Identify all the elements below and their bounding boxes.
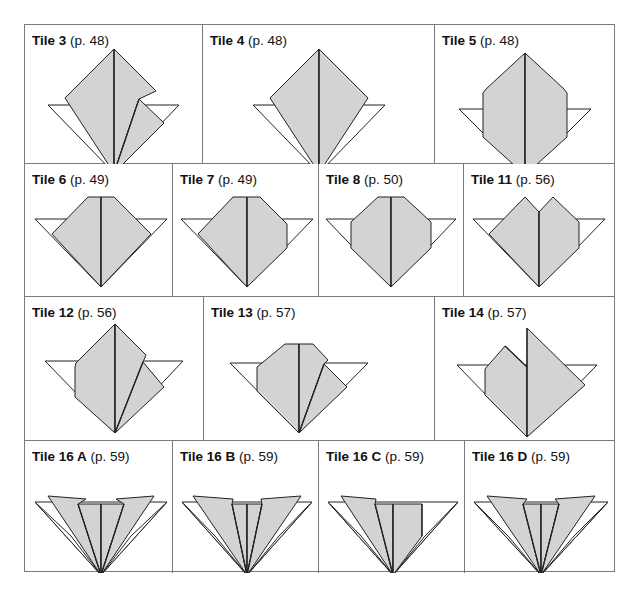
- folded-flap: [257, 344, 299, 433]
- folded-flap: [198, 197, 247, 287]
- tile-row: Tile 12 (p. 56)Tile 13 (p. 57)Tile 14 (p…: [25, 297, 614, 441]
- tile-cell-tile-4: Tile 4 (p. 48): [203, 25, 435, 163]
- tile-cell-tile-3: Tile 3 (p. 48): [25, 25, 203, 163]
- tile-label: Tile 7 (p. 49): [180, 172, 257, 187]
- tile-label: Tile 12 (p. 56): [32, 305, 117, 320]
- tile-label: Tile 16 C (p. 59): [326, 449, 424, 464]
- tile-label: Tile 14 (p. 57): [442, 305, 527, 320]
- tile-name: Tile 13: [211, 305, 253, 320]
- tile-name: Tile 16 D: [472, 449, 527, 464]
- tile-cell-tile-13: Tile 13 (p. 57): [204, 297, 435, 440]
- tile-row: Tile 16 A (p. 59)Tile 16 B (p. 59)Tile 1…: [25, 441, 614, 573]
- folded-flap: [52, 197, 101, 287]
- tile-page-ref: (p. 49): [218, 172, 257, 187]
- tile-cell-tile-7: Tile 7 (p. 49): [173, 164, 319, 296]
- tile-name: Tile 16 B: [180, 449, 235, 464]
- tile-name: Tile 16 A: [32, 449, 87, 464]
- tile-cell-tile-11: Tile 11 (p. 56): [464, 164, 616, 296]
- folded-flap: [351, 197, 391, 287]
- tile-name: Tile 16 C: [326, 449, 381, 464]
- tile-name: Tile 4: [210, 33, 244, 48]
- folded-flap: [527, 328, 585, 437]
- tile-name: Tile 7: [180, 172, 214, 187]
- tile-cell-tile-5: Tile 5 (p. 48): [435, 25, 616, 163]
- folded-flap: [393, 504, 422, 573]
- folded-flap: [247, 197, 287, 287]
- folded-flap: [101, 197, 151, 287]
- tile-label: Tile 16 B (p. 59): [180, 449, 278, 464]
- tile-row: Tile 3 (p. 48)Tile 4 (p. 48)Tile 5 (p. 4…: [25, 25, 614, 164]
- tile-page-ref: (p. 59): [239, 449, 278, 464]
- tile-cell-tile-8: Tile 8 (p. 50): [319, 164, 464, 296]
- tile-name: Tile 5: [442, 33, 476, 48]
- tile-label: Tile 16 D (p. 59): [472, 449, 570, 464]
- tile-name: Tile 3: [32, 33, 66, 48]
- tile-cell-tile-16-b: Tile 16 B (p. 59): [173, 441, 319, 573]
- folded-flap: [485, 346, 527, 437]
- tile-name: Tile 14: [442, 305, 484, 320]
- folded-flap: [391, 197, 431, 287]
- tile-label: Tile 6 (p. 49): [32, 172, 109, 187]
- tile-name: Tile 8: [326, 172, 360, 187]
- tile-page-ref: (p. 48): [70, 33, 109, 48]
- folded-flap: [75, 324, 115, 433]
- tile-page-ref: (p. 56): [516, 172, 555, 187]
- tile-label: Tile 5 (p. 48): [442, 33, 519, 48]
- folded-flap: [483, 53, 525, 164]
- tile-name: Tile 6: [32, 172, 66, 187]
- tile-name: Tile 12: [32, 305, 74, 320]
- tile-label: Tile 16 A (p. 59): [32, 449, 130, 464]
- tile-page-ref: (p. 49): [70, 172, 109, 187]
- folded-flap: [489, 197, 539, 287]
- tile-cell-tile-14: Tile 14 (p. 57): [435, 297, 616, 440]
- tile-name: Tile 11: [471, 172, 512, 187]
- tile-page-ref: (p. 50): [364, 172, 403, 187]
- tile-page-ref: (p. 57): [488, 305, 527, 320]
- tile-grid: Tile 3 (p. 48)Tile 4 (p. 48)Tile 5 (p. 4…: [24, 24, 615, 572]
- tile-row: Tile 6 (p. 49)Tile 7 (p. 49)Tile 8 (p. 5…: [25, 164, 614, 297]
- tile-cell-tile-16-a: Tile 16 A (p. 59): [25, 441, 173, 573]
- tile-page-ref: (p. 59): [91, 449, 130, 464]
- tile-label: Tile 8 (p. 50): [326, 172, 403, 187]
- folded-flap: [525, 53, 567, 164]
- folded-flap: [539, 197, 579, 287]
- tile-page-ref: (p. 59): [385, 449, 424, 464]
- tile-page-ref: (p. 57): [257, 305, 296, 320]
- tile-cell-tile-12: Tile 12 (p. 56): [25, 297, 204, 440]
- tile-page-ref: (p. 56): [78, 305, 117, 320]
- tile-label: Tile 4 (p. 48): [210, 33, 287, 48]
- tile-cell-tile-16-d: Tile 16 D (p. 59): [465, 441, 616, 573]
- tile-page-ref: (p. 48): [480, 33, 519, 48]
- tile-cell-tile-6: Tile 6 (p. 49): [25, 164, 173, 296]
- tile-label: Tile 13 (p. 57): [211, 305, 296, 320]
- tile-label: Tile 11 (p. 56): [471, 172, 555, 187]
- tile-label: Tile 3 (p. 48): [32, 33, 109, 48]
- tile-cell-tile-16-c: Tile 16 C (p. 59): [319, 441, 465, 573]
- tile-page-ref: (p. 48): [248, 33, 287, 48]
- tile-page-ref: (p. 59): [531, 449, 570, 464]
